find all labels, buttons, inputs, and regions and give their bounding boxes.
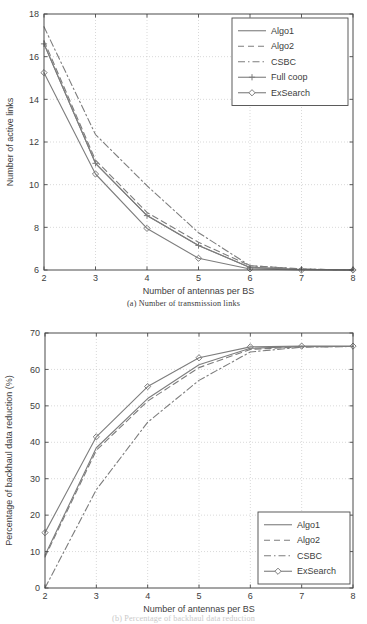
legend-label-exsearch: ExSearch xyxy=(271,88,310,98)
x-tick-label: 6 xyxy=(247,273,252,283)
y-axis-title: Number of active links xyxy=(5,97,15,186)
x-tick-label: 2 xyxy=(41,273,46,283)
x-tick-label: 3 xyxy=(94,591,99,601)
y-tick-label: 50 xyxy=(30,401,40,411)
x-tick-label: 8 xyxy=(350,591,355,601)
y-tick-label: 70 xyxy=(30,328,40,338)
legend-label-algo1: Algo1 xyxy=(297,520,320,530)
x-tick-label: 8 xyxy=(350,273,355,283)
chart-legend[interactable]: Algo1Algo2CSBCFull coopExSearch xyxy=(232,18,348,106)
y-tick-label: 12 xyxy=(29,137,39,147)
plot-area-b: 2345678010203040506070Number of antennas… xyxy=(0,318,367,614)
legend-label-exsearch: ExSearch xyxy=(297,566,336,576)
y-tick-label: 8 xyxy=(34,223,39,233)
legend-label-algo2: Algo2 xyxy=(297,535,320,545)
figure-container: 2345678681012141618Number of antennas pe… xyxy=(0,0,367,624)
caption-a: (a) Number of transmission links xyxy=(0,299,367,308)
y-tick-label: 10 xyxy=(30,547,40,557)
y-tick-label: 14 xyxy=(29,95,39,105)
y-tick-label: 16 xyxy=(29,52,39,62)
x-tick-label: 4 xyxy=(144,273,149,283)
x-tick-label: 3 xyxy=(93,273,98,283)
y-tick-label: 10 xyxy=(29,180,39,190)
y-tick-label: 30 xyxy=(30,474,40,484)
x-tick-label: 5 xyxy=(196,273,201,283)
x-axis-title: Number of antennas per BS xyxy=(143,286,255,295)
x-tick-label: 7 xyxy=(299,591,304,601)
x-tick-label: 4 xyxy=(145,591,150,601)
y-tick-label: 18 xyxy=(29,9,39,19)
y-tick-label: 60 xyxy=(30,365,40,375)
x-tick-label: 6 xyxy=(248,591,253,601)
caption-b: (b) Percentage of backhaul data reductio… xyxy=(0,614,367,623)
chart-panel-a: 2345678681012141618Number of antennas pe… xyxy=(0,0,367,312)
plot-area-a: 2345678681012141618Number of antennas pe… xyxy=(0,0,367,295)
y-tick-label: 0 xyxy=(35,583,40,593)
y-tick-label: 20 xyxy=(30,510,40,520)
legend-label-csbc: CSBC xyxy=(297,551,323,561)
y-axis-title: Percentage of backhaul data reduction (%… xyxy=(4,375,14,546)
x-tick-label: 5 xyxy=(196,591,201,601)
x-axis-title: Number of antennas per BS xyxy=(143,604,255,614)
y-tick-label: 40 xyxy=(30,437,40,447)
chart-panel-b: 2345678010203040506070Number of antennas… xyxy=(0,318,367,624)
line-chart-b: 2345678010203040506070Number of antennas… xyxy=(0,318,367,614)
legend-label-algo2: Algo2 xyxy=(271,41,294,51)
legend-label-csbc: CSBC xyxy=(271,57,297,67)
line-chart-a: 2345678681012141618Number of antennas pe… xyxy=(0,0,367,295)
legend-label-algo1: Algo1 xyxy=(271,26,294,36)
y-tick-label: 6 xyxy=(34,265,39,275)
x-tick-label: 2 xyxy=(42,591,47,601)
legend-label-full-coop: Full coop xyxy=(271,72,308,82)
x-tick-label: 7 xyxy=(299,273,304,283)
chart-legend[interactable]: Algo1Algo2CSBCExSearch xyxy=(258,512,350,584)
